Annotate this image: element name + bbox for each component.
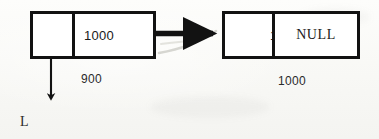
- node-data-value: NULL: [296, 27, 336, 43]
- node-pointer-cell: [33, 14, 75, 56]
- scan-artifact-streak: [159, 31, 216, 53]
- list-node: 10 NULL: [222, 11, 360, 59]
- node-pointer-cell: 10: [225, 14, 275, 56]
- node-data-cell: 1000: [75, 14, 153, 56]
- list-node: 1000: [30, 11, 156, 59]
- paper-smudge: [150, 96, 270, 118]
- node-address-label: 1000: [278, 74, 306, 88]
- linked-list-diagram: 1000 10 NULL: [0, 0, 379, 139]
- node-data-value: 1000: [84, 28, 114, 43]
- diagram-canvas: 1000 10 NULL: [0, 0, 379, 139]
- head-pointer-label: L: [20, 114, 29, 130]
- node-data-cell: NULL: [275, 14, 357, 56]
- node-address-label: 900: [81, 72, 102, 86]
